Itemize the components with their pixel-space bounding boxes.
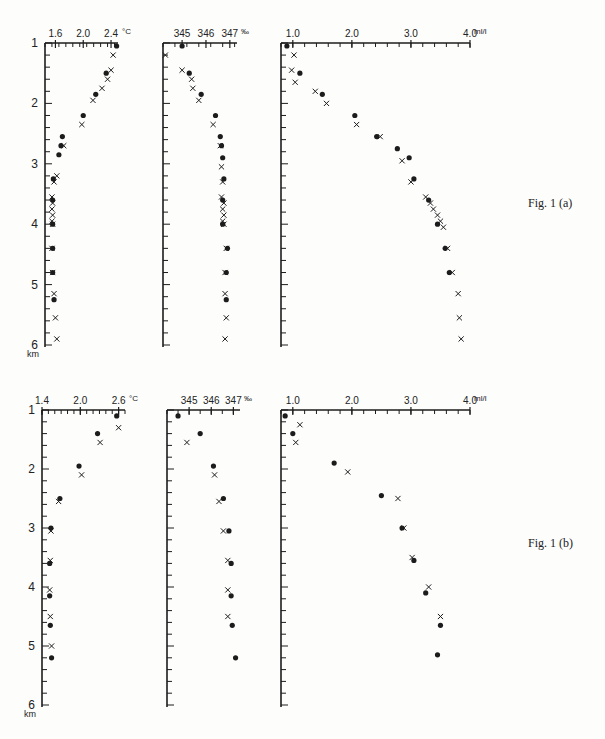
x-tick-label: 347 (221, 28, 238, 39)
data-point-cross (408, 179, 413, 184)
data-point-cross (459, 336, 464, 341)
x-unit-label: ‰ (241, 27, 249, 36)
data-point-dot (48, 623, 53, 628)
data-point-dot (423, 590, 428, 595)
data-point-dot (199, 92, 204, 97)
depth-tick-label: 2 (28, 462, 35, 476)
x-tick-label: 2.0 (345, 28, 359, 39)
data-point-cross (99, 86, 104, 91)
depth-unit-label: km (24, 709, 36, 719)
x-tick-label: 2.0 (345, 395, 359, 406)
data-point-cross (297, 422, 302, 427)
data-point-cross (313, 89, 318, 94)
data-point-dot (438, 623, 443, 628)
x-tick-label: 2.0 (73, 395, 87, 406)
data-point-cross (49, 643, 54, 648)
chart-fig1a_oxygen: 1.02.03.04.0ml/l (281, 27, 487, 347)
data-point-dot (224, 297, 229, 302)
depth-tick-label: 3 (28, 521, 35, 535)
data-point-cross (221, 528, 226, 533)
data-point-dot (60, 134, 65, 139)
data-point-cross (190, 86, 195, 91)
x-tick-label: 2.6 (112, 395, 126, 406)
data-point-dot (407, 155, 412, 160)
x-tick-label: 2.0 (76, 28, 90, 39)
data-point-cross (293, 440, 298, 445)
x-tick-label: 345 (174, 28, 191, 39)
data-point-cross (179, 68, 184, 73)
data-point-dot (104, 71, 109, 76)
data-point-cross (324, 101, 329, 106)
depth-unit-label: km (27, 349, 39, 359)
data-point-cross (426, 584, 431, 589)
x-tick-label: 2.4 (104, 28, 118, 39)
data-point-dot (175, 413, 180, 418)
data-point-cross (90, 98, 95, 103)
depth-tick-label: 2 (31, 96, 38, 110)
depth-tick-label: 1 (31, 36, 38, 50)
data-point-cross (216, 499, 221, 504)
depth-tick-label: 5 (31, 278, 38, 292)
data-point-cross (221, 213, 226, 218)
data-point-dot (76, 463, 81, 468)
x-tick-label: 3.0 (404, 28, 418, 39)
data-point-dot (221, 496, 226, 501)
x-tick-label: 345 (181, 395, 198, 406)
x-tick-label: 1.0 (286, 395, 300, 406)
depth-tick-label: 1 (28, 403, 35, 417)
data-point-dot (320, 92, 325, 97)
chart-fig1b_oxygen: 1.02.03.04.0ml/l (281, 394, 487, 707)
data-point-cross (399, 158, 404, 163)
data-point-dot (332, 461, 337, 466)
data-point-dot (213, 113, 218, 118)
data-point-dot (179, 43, 184, 48)
depth-tick-label: 4 (28, 580, 35, 594)
data-point-dot (230, 623, 235, 628)
data-point-dot (211, 463, 216, 468)
data-point-cross (423, 194, 428, 199)
x-unit-label: ml/l (474, 394, 487, 403)
data-point-cross (79, 472, 84, 477)
depth-tick-label: 4 (31, 217, 38, 231)
data-point-dot (220, 155, 225, 160)
data-point-dot (233, 655, 238, 660)
data-point-cross (54, 173, 59, 178)
data-point-cross (438, 614, 443, 619)
data-point-dot (51, 297, 56, 302)
data-point-cross (345, 469, 350, 474)
data-point-dot (187, 71, 192, 76)
x-tick-label: 346 (203, 395, 220, 406)
data-point-dot (352, 113, 357, 118)
data-point-cross (212, 472, 217, 477)
data-point-cross (293, 80, 298, 85)
data-point-cross (50, 213, 55, 218)
x-tick-label: 1.0 (286, 28, 300, 39)
depth-tick-label: 3 (31, 157, 38, 171)
data-point-cross (222, 291, 227, 296)
data-point-dot (56, 152, 61, 157)
data-point-cross (189, 77, 194, 82)
x-tick-label: 1.6 (48, 28, 62, 39)
chart-fig1a_temperature: 1.62.02.4°C123456km (27, 27, 131, 359)
data-point-cross (53, 315, 58, 320)
data-point-cross (435, 213, 440, 218)
data-point-cross (108, 68, 113, 73)
data-point-cross (456, 291, 461, 296)
data-point-cross (79, 122, 84, 127)
data-point-cross (354, 122, 359, 127)
data-point-dot (81, 113, 86, 118)
data-point-dot (114, 43, 119, 48)
data-point-cross (116, 425, 121, 430)
x-unit-label: ‰ (244, 394, 252, 403)
data-point-dot (114, 413, 119, 418)
x-tick-label: 346 (198, 28, 215, 39)
data-point-dot (395, 146, 400, 151)
x-unit-label: °C (122, 27, 131, 36)
caption-fig-1a: Fig. 1 (a) (528, 196, 572, 211)
data-point-dot (435, 652, 440, 657)
data-point-cross (289, 68, 294, 73)
data-point-dot (58, 143, 63, 148)
data-point-cross (111, 52, 116, 57)
data-point-cross (225, 614, 230, 619)
data-point-dot (229, 593, 234, 598)
